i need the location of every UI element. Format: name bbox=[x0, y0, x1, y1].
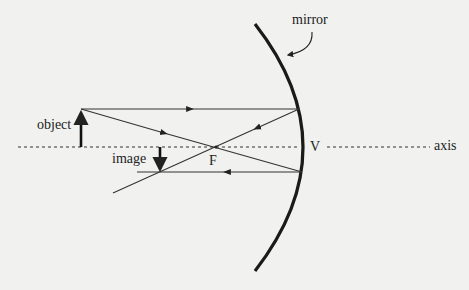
diagram-canvas bbox=[0, 0, 469, 290]
vertex-label: V bbox=[310, 140, 320, 154]
mirror-pointer-arrow-icon bbox=[288, 32, 312, 55]
axis-label: axis bbox=[434, 139, 457, 153]
object-label: object bbox=[37, 118, 71, 132]
mirror-label: mirror bbox=[292, 13, 328, 27]
concave-mirror-diagram: mirror object image F V axis bbox=[0, 0, 469, 290]
focal-point-label: F bbox=[209, 154, 217, 168]
image-label: image bbox=[112, 152, 146, 166]
focal-point-marker bbox=[214, 145, 217, 148]
